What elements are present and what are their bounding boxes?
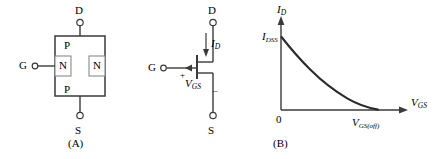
drain-current-arrow-head (203, 49, 209, 57)
chart-vgsoff-subscript: GS(off) (359, 122, 380, 130)
drain-terminal-a (77, 19, 83, 25)
gate-source-voltage-label: VGS (185, 78, 201, 89)
chart-x-axis-arrow (399, 107, 408, 114)
gate-terminal-b (161, 65, 167, 71)
source-terminal-b (210, 112, 216, 118)
panel-b-gate-label: G (148, 62, 156, 73)
drain-current-subscript: D (215, 42, 220, 51)
chart-x-axis-symbol: V (411, 96, 418, 108)
transfer-characteristic-chart (278, 16, 408, 113)
chart-y-axis-subscript: D (281, 8, 286, 17)
chart-y-axis-arrow (278, 16, 285, 25)
panel-a-region-bottom-label: P (64, 84, 70, 95)
panel-b-symbol (161, 19, 217, 118)
source-terminal-a (77, 112, 83, 118)
chart-idss-label: IDSS (262, 31, 278, 42)
figure-canvas (0, 0, 442, 159)
panel-a-region-gate-left-label: N (59, 60, 67, 71)
panel-a-caption: (A) (68, 138, 83, 149)
vgs-subscript: GS (192, 82, 201, 91)
panel-a-drain-label: D (75, 5, 83, 16)
panel-a-region-top-label: P (64, 40, 70, 51)
chart-curve (282, 37, 379, 110)
vgs-symbol: V (185, 77, 192, 89)
gate-arrow-head-b (185, 65, 192, 72)
chart-idss-subscript: DSS (266, 36, 278, 44)
chart-vgsoff-label: VGS(off) (352, 117, 379, 128)
chart-y-axis-label: ID (277, 4, 286, 15)
chart-x-axis-label: VGS (411, 97, 427, 108)
jfet-figure: D S G P P N N (A) D S G ID + VGS _ ID VG… (0, 0, 442, 159)
panel-a-source-label: S (75, 125, 81, 136)
chart-vgsoff-symbol: V (352, 116, 359, 128)
drain-current-label: ID (211, 38, 220, 49)
chart-x-axis-subscript: GS (418, 101, 427, 110)
panel-a-gate-label: G (19, 60, 27, 71)
panel-a-region-gate-right-label: N (93, 60, 101, 71)
panel-b-drain-label: D (208, 5, 216, 16)
panel-b-source-label: S (208, 125, 214, 136)
vgs-minus-sign: _ (213, 83, 218, 93)
gate-terminal-a (32, 63, 38, 69)
panel-b-caption: (B) (273, 138, 288, 149)
chart-origin-label: 0 (276, 114, 282, 125)
drain-terminal-b (210, 19, 216, 25)
